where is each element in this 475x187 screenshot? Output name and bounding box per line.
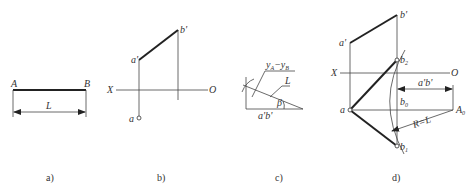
label-a-prime: a' [339,37,347,48]
caption-b: b) [157,172,165,184]
label-X: X [106,84,114,95]
label-radius: R=L [410,113,432,130]
label-X: X [330,67,338,78]
label-B: B [84,78,90,89]
descriptive-geometry-figure: A B L a) a' b' a X O b) yA−yB L β a'b' c… [0,0,475,187]
angle-arc-beta [283,101,284,109]
label-a: a [129,113,134,124]
panel-d: a' b' a X O b2 b0 b1 A0 a'b' R=L d) [330,9,465,184]
segment-a-prime-b-prime [139,30,178,60]
panel-a: A B L a) [10,78,90,184]
point-b2 [395,58,399,62]
label-A: A [10,78,18,89]
caption-c: c) [275,172,283,184]
label-b1: b1 [400,141,408,153]
point-b1 [395,144,399,148]
point-a [137,116,141,120]
label-a-prime: a' [131,54,139,65]
segment-a-b1 [350,110,397,146]
label-b2: b2 [400,54,408,66]
label-b-prime: b' [400,9,408,20]
label-L: L [45,100,52,111]
label-a-prime-b-prime: a'b' [418,77,433,88]
caption-d: d) [392,172,400,184]
segment-a-prime-b-prime [350,15,397,43]
label-L: L [284,75,291,86]
label-A0: A0 [455,104,465,116]
label-b-prime: b' [180,24,188,35]
leader-L [270,86,290,97]
caption-a: a) [46,172,54,184]
label-b0: b0 [400,96,408,108]
point-a [348,108,352,112]
label-yA-yB: yA−yB [265,59,289,71]
label-a-prime-b-prime: a'b' [258,110,273,121]
panel-b: a' b' a X O b) [106,24,216,184]
label-beta: β [276,97,282,108]
label-O: O [451,67,458,78]
label-O: O [209,84,216,95]
panel-c: yA−yB L β a'b' c) [242,59,303,184]
label-a: a [340,104,345,115]
